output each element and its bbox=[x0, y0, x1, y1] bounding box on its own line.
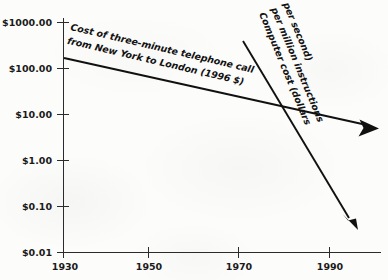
y-tick-label-0-10: $0.10 bbox=[22, 201, 52, 212]
x-tick-labels: 1930 1950 1970 1990 bbox=[52, 261, 344, 272]
x-tick-label-1950: 1950 bbox=[136, 261, 163, 272]
y-tick-label-100: $100.00 bbox=[9, 63, 53, 74]
x-tick-label-1970: 1970 bbox=[226, 261, 253, 272]
y-tick-labels: $1000.00 $100.00 $10.00 $1.00 $0.10 $0.0… bbox=[2, 17, 52, 258]
x-tick-label-1990: 1990 bbox=[317, 261, 344, 272]
log-line-chart: $1000.00 $100.00 $10.00 $1.00 $0.10 $0.0… bbox=[0, 0, 388, 280]
telephone-cost-arrowhead bbox=[359, 120, 380, 137]
y-tick-label-1000: $1000.00 bbox=[2, 17, 52, 28]
y-tick-label-10: $10.00 bbox=[15, 109, 52, 120]
computer-annotation: Computer cost (dollars per million instr… bbox=[257, 0, 339, 129]
chart-figure: $1000.00 $100.00 $10.00 $1.00 $0.10 $0.0… bbox=[0, 0, 388, 280]
computer-cost-arrowhead bbox=[343, 214, 359, 230]
y-tick-label-1: $1.00 bbox=[22, 155, 52, 166]
x-tick-label-1930: 1930 bbox=[52, 261, 79, 272]
y-tick-label-0-01: $0.01 bbox=[22, 247, 52, 258]
